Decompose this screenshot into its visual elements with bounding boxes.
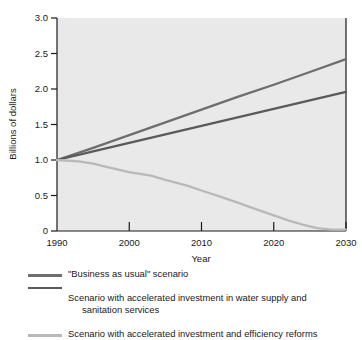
legend-swatch-cell bbox=[28, 328, 62, 337]
y-axis-title: Billions of dollars bbox=[7, 88, 18, 160]
legend-label: "Business as usual" scenario bbox=[62, 268, 188, 280]
chart-legend: "Business as usual" scenario Scenario wi… bbox=[0, 268, 362, 334]
y-axis-tick-label: 2.0 bbox=[35, 83, 48, 94]
legend-swatch-cell bbox=[28, 268, 62, 277]
legend-label-line1: Scenario with accelerated investment in … bbox=[68, 292, 307, 303]
legend-color-swatch bbox=[28, 274, 62, 277]
legend-label: Scenario with accelerated investment and… bbox=[62, 328, 317, 340]
x-axis-title: Year bbox=[191, 253, 210, 264]
x-axis-tick-label: 2020 bbox=[263, 237, 284, 248]
legend-color-swatch bbox=[28, 334, 62, 337]
y-axis-ticks bbox=[51, 18, 57, 231]
legend-item-accelerated-investment-efficiency-reforms: Scenario with accelerated investment and… bbox=[0, 328, 362, 340]
y-axis-tick-label: 2.5 bbox=[35, 48, 48, 59]
x-axis-tick-label: 2000 bbox=[119, 237, 140, 248]
y-axis-tick-label: 3.0 bbox=[35, 12, 48, 23]
y-axis-tick-label: 1.0 bbox=[35, 154, 48, 165]
x-axis-tick-labels: 19902000201020202030 bbox=[46, 237, 356, 248]
legend-color-swatch bbox=[28, 287, 62, 290]
legend-item-business-as-usual: "Business as usual" scenario bbox=[0, 268, 362, 280]
y-axis-tick-label: 1.5 bbox=[35, 119, 48, 130]
x-axis-tick-label: 1990 bbox=[46, 237, 67, 248]
legend-label-line2: sanitation services bbox=[68, 304, 307, 316]
y-axis-tick-label: 0 bbox=[43, 225, 48, 236]
y-axis-tick-labels: 00.51.01.52.02.53.0 bbox=[35, 12, 48, 236]
legend-item-accelerated-investment-water-sanitation: Scenario with accelerated investment in … bbox=[0, 281, 362, 327]
plot-background bbox=[57, 18, 346, 231]
legend-label: Scenario with accelerated investment in … bbox=[62, 281, 307, 327]
legend-swatch-cell bbox=[28, 281, 62, 290]
x-axis-tick-label: 2030 bbox=[335, 237, 356, 248]
x-axis-tick-label: 2010 bbox=[191, 237, 212, 248]
y-axis-tick-label: 0.5 bbox=[35, 190, 48, 201]
